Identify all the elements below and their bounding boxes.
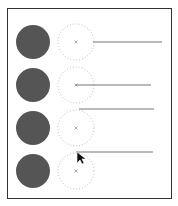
cursor-arrow-icon xyxy=(77,152,86,164)
center-marker-icon xyxy=(75,127,78,130)
filled-circle[interactable] xyxy=(16,25,50,59)
center-marker-icon xyxy=(75,170,78,173)
canvas-shapes[interactable] xyxy=(0,0,178,206)
filled-circle[interactable] xyxy=(16,111,50,145)
filled-circle[interactable] xyxy=(16,154,50,188)
center-marker-icon xyxy=(75,41,78,44)
filled-circle[interactable] xyxy=(16,68,50,102)
